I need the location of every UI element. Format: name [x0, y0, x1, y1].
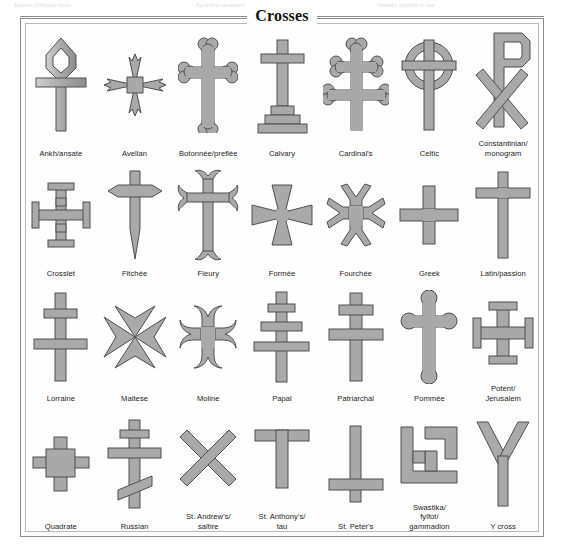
cross-cell-greek: Greek — [393, 161, 467, 281]
cross-cell-celtic: Celtic — [393, 22, 467, 161]
cross-label: Quadrate — [44, 522, 78, 532]
swastika-fylfot-gammadion-icon — [393, 406, 467, 503]
cross-cell-fitchee: Fitchée — [98, 161, 172, 281]
cross-label: Moline — [196, 394, 221, 404]
cross-label: Botonnée/preflée — [178, 149, 239, 159]
ankh-cross-icon — [24, 22, 98, 149]
page-bleed-through: Eastern Orthodox cross Byzantine variati… — [0, 0, 567, 10]
cross-label: Greek — [418, 269, 441, 279]
cross-cell-patriarchal: Patriarchal — [319, 281, 393, 406]
cross-grid: Ankh/ansate Avellan — [24, 22, 540, 534]
avellan-cross-icon — [98, 22, 172, 149]
patriarchal-cross-icon — [319, 281, 393, 394]
cross-label: Potent/ Jerusalem — [484, 384, 521, 404]
cross-cell-avellan: Avellan — [98, 22, 172, 161]
cross-cell-latin: Latin/passion — [466, 161, 540, 281]
cross-label: Constantinian/ monogram — [478, 139, 529, 159]
cross-cell-swastika: Swastika/ fylfot/ gammadion — [393, 406, 467, 534]
cross-label: Avellan — [121, 149, 148, 159]
cross-cell-formee: Formée — [245, 161, 319, 281]
russian-cross-icon — [98, 406, 172, 522]
cross-label: Y cross — [489, 522, 517, 532]
cross-label: Celtic — [419, 149, 440, 159]
cross-label: St. Peter's — [337, 522, 374, 532]
cross-label: Fleury — [197, 269, 220, 279]
title-rule-right — [317, 16, 544, 17]
cross-label: Crosslet — [46, 269, 76, 279]
cross-label: Formée — [268, 269, 296, 279]
cross-cell-botonnee: Botonnée/preflée — [171, 22, 245, 161]
latin-cross-icon — [466, 161, 540, 269]
cross-label: Maltese — [120, 394, 149, 404]
cross-cell-moline: Moline — [171, 281, 245, 406]
cross-label: Pommée — [413, 394, 446, 404]
cross-label: St. Andrew's/ saltire — [185, 512, 232, 532]
cross-label: Fitchée — [121, 269, 148, 279]
bleed-text-1: Eastern Orthodox cross — [14, 2, 71, 8]
formee-cross-icon — [245, 161, 319, 269]
cross-cell-stanthonys: St. Anthony's/ tau — [245, 406, 319, 534]
cross-cell-fleury: Fleury — [171, 161, 245, 281]
calvary-cross-icon — [245, 22, 319, 149]
bleed-text-3: heraldic symbols in use — [378, 2, 435, 8]
cross-label: Russian — [120, 522, 150, 532]
cross-label: Ankh/ansate — [38, 149, 83, 159]
cross-cell-fourchee: Fourchée — [319, 161, 393, 281]
cross-label: Latin/passion — [479, 269, 526, 279]
cross-cell-ycross: Y cross — [466, 406, 540, 534]
cross-label: Fourchée — [338, 269, 372, 279]
cross-cell-lorraine: Lorraine — [24, 281, 98, 406]
title-rule-left — [20, 16, 247, 17]
cross-cell-potent: Potent/ Jerusalem — [466, 281, 540, 406]
bleed-text-2: Byzantine variations — [196, 2, 245, 8]
cross-cell-russian: Russian — [98, 406, 172, 534]
st-peters-cross-icon — [319, 406, 393, 522]
cross-label: Papal — [271, 394, 293, 404]
cross-cell-cardinals: Cardinal's — [319, 22, 393, 161]
pommee-cross-icon — [393, 281, 467, 394]
y-cross-icon — [466, 406, 540, 522]
cross-cell-constantinian: Constantinian/ monogram — [466, 22, 540, 161]
cross-cell-pommee: Pommée — [393, 281, 467, 406]
cross-label: Calvary — [268, 149, 296, 159]
cross-label: Lorraine — [46, 394, 76, 404]
cross-label: Swastika/ fylfot/ gammadion — [408, 503, 450, 532]
cross-cell-papal: Papal — [245, 281, 319, 406]
cross-label: Cardinal's — [338, 149, 374, 159]
moline-cross-icon — [171, 281, 245, 394]
papal-cross-icon — [245, 281, 319, 394]
greek-cross-icon — [393, 161, 467, 269]
cross-cell-calvary: Calvary — [245, 22, 319, 161]
botonnee-cross-icon — [171, 22, 245, 149]
crosslet-cross-icon — [24, 161, 98, 269]
st-anthonys-tau-cross-icon — [245, 406, 319, 512]
fourchee-cross-icon — [319, 161, 393, 269]
cross-cell-quadrate: Quadrate — [24, 406, 98, 534]
constantinian-chi-rho-icon — [466, 22, 540, 139]
cardinals-cross-icon — [319, 22, 393, 149]
potent-jerusalem-cross-icon — [466, 281, 540, 384]
fleury-cross-icon — [171, 161, 245, 269]
cross-label: Patriarchal — [336, 394, 375, 404]
cross-cell-standrews: St. Andrew's/ saltire — [171, 406, 245, 534]
cross-cell-ankh: Ankh/ansate — [24, 22, 98, 161]
st-andrews-saltire-cross-icon — [171, 406, 245, 512]
cross-cell-maltese: Maltese — [98, 281, 172, 406]
celtic-cross-icon — [393, 22, 467, 149]
quadrate-cross-icon — [24, 406, 98, 522]
cross-cell-stpeters: St. Peter's — [319, 406, 393, 534]
lorraine-cross-icon — [24, 281, 98, 394]
cross-cell-crosslet: Crosslet — [24, 161, 98, 281]
fitchee-cross-icon — [98, 161, 172, 269]
maltese-cross-icon — [98, 281, 172, 394]
cross-label: St. Anthony's/ tau — [258, 512, 307, 532]
